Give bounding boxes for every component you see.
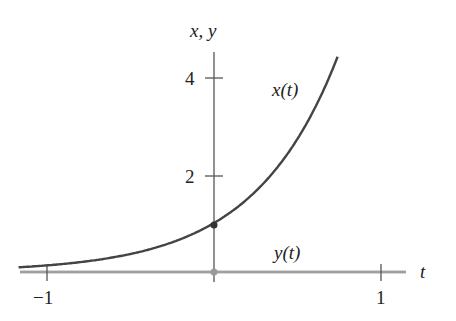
- point-x0: [211, 222, 218, 229]
- curve-label-x: x(t): [271, 79, 298, 101]
- t-axis-label: t: [420, 261, 426, 282]
- chart: x, y 4 2 −1 1 t x(t) y(t): [0, 0, 456, 321]
- curve-label-y: y(t): [272, 242, 300, 264]
- y-axis-label: x, y: [189, 20, 217, 41]
- t-tick-label-1: 1: [376, 287, 386, 308]
- t-tick-label-neg1: −1: [33, 287, 53, 308]
- point-y0: [211, 269, 218, 276]
- y-tick-label-4: 4: [185, 68, 195, 89]
- y-tick-label-2: 2: [185, 166, 195, 187]
